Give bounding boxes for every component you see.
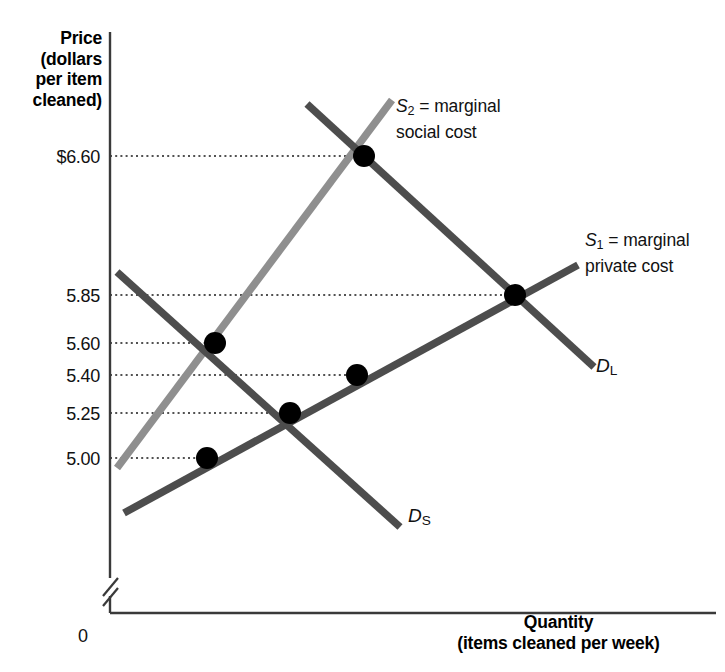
curve-ds-short-run-demand [117, 272, 400, 527]
curve-label-s1-symbol: S [585, 230, 597, 250]
y-axis-title-line-2: (dollars [18, 49, 102, 70]
y-tick-label-5-25: 5.25 [14, 405, 100, 423]
point-5-60 [204, 332, 226, 354]
curve-dl-long-run-demand [307, 104, 594, 367]
y-tick-label-6-60: $6.60 [14, 148, 100, 166]
curve-label-s2: S2 = marginal social cost [396, 96, 500, 143]
curve-label-dl-symbol: D [596, 355, 610, 376]
curve-label-ds: DS [408, 505, 431, 531]
equilibrium-points [196, 145, 526, 469]
curve-label-s1-line-2: private cost [585, 256, 689, 277]
y-tick-label-5-40: 5.40 [14, 367, 100, 385]
y-axis-title-line-4: cleaned) [18, 90, 102, 111]
y-axis-title: Price (dollars per item cleaned) [18, 28, 102, 110]
y-tick-label-5-00: 5.00 [14, 450, 100, 468]
curve-label-s1-subscript: 1 [597, 238, 604, 252]
point-5-00 [196, 447, 218, 469]
chart-canvas [0, 0, 725, 672]
curve-label-s2-line-2: social cost [396, 122, 500, 143]
curve-label-s1-text: = marginal [608, 230, 689, 250]
curve-label-ds-symbol: D [408, 505, 422, 526]
x-axis-title-sub: (items cleaned per week) [396, 633, 721, 654]
curve-label-dl: DL [596, 355, 617, 381]
curve-label-s1: S1 = marginal private cost [585, 230, 689, 277]
point-6-60 [353, 145, 375, 167]
curve-label-s2-text: = marginal [419, 96, 500, 116]
origin-label: 0 [78, 626, 88, 647]
curve-label-s2-line-1: S2 = marginal [396, 96, 500, 122]
curve-label-dl-subscript: L [610, 363, 618, 378]
y-tick-label-5-85: 5.85 [14, 287, 100, 305]
curve-s2-marginal-social-cost [117, 100, 392, 468]
y-axis-title-line-1: Price [18, 28, 102, 49]
curve-label-ds-subscript: S [422, 513, 431, 528]
economics-externality-chart: Price (dollars per item cleaned) $6.60 5… [0, 0, 725, 672]
x-axis-title-main: Quantity [396, 612, 721, 633]
curve-label-s1-line-1: S1 = marginal [585, 230, 689, 256]
curve-label-s2-subscript: 2 [408, 104, 415, 118]
y-tick-label-5-60: 5.60 [14, 335, 100, 353]
x-axis-title: Quantity (items cleaned per week) [396, 612, 721, 654]
y-axis-title-line-3: per item [18, 69, 102, 90]
point-5-40 [346, 364, 368, 386]
curve-label-s2-symbol: S [396, 96, 408, 116]
point-5-25 [279, 402, 301, 424]
point-5-85 [504, 284, 526, 306]
